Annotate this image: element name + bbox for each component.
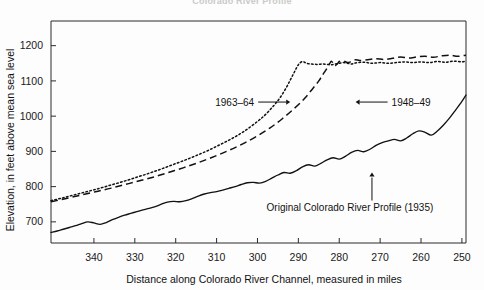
y-tick-label-1000: 1000: [20, 110, 44, 122]
figure-container: Colorado River Profile 70080090010001100…: [0, 0, 484, 290]
series-line-dotted: [51, 61, 466, 201]
y-tick-label-1200: 1200: [20, 39, 44, 51]
annotation-arrowhead: [369, 173, 374, 177]
x-tick-label-340: 340: [85, 251, 103, 263]
series-line-dashed: [51, 55, 466, 202]
x-tick-label-260: 260: [412, 251, 430, 263]
x-tick-label-280: 280: [330, 251, 348, 263]
ann-original-label: Original Colorado River Profile (1935): [267, 202, 434, 213]
y-axis-title: Elevation, in feet above mean sea level: [4, 49, 16, 232]
y-tick-label-1100: 1100: [20, 75, 43, 87]
x-axis-ticks: 340330320310300290280270260250: [85, 238, 471, 263]
annotation-arrowhead: [286, 99, 290, 104]
chart-canvas: 700800900100011001200 340330320310300290…: [0, 0, 484, 290]
y-tick-label-900: 900: [25, 145, 43, 157]
x-tick-label-300: 300: [249, 251, 267, 263]
y-tick-label-700: 700: [25, 215, 43, 227]
x-tick-label-270: 270: [371, 251, 389, 263]
ann-1963-label: 1963–64: [215, 97, 254, 108]
x-tick-label-250: 250: [453, 251, 471, 263]
x-tick-label-330: 330: [126, 251, 144, 263]
y-tick-label-800: 800: [25, 180, 43, 192]
annotation-arrowhead: [356, 99, 360, 104]
x-axis-title: Distance along Colorado River Channel, m…: [126, 273, 401, 285]
x-tick-label-310: 310: [208, 251, 226, 263]
x-tick-label-320: 320: [167, 251, 185, 263]
ann-1948-label: 1948–49: [392, 97, 431, 108]
annotation-layer: 1963–641948–49Original Colorado River Pr…: [215, 97, 433, 213]
x-tick-label-290: 290: [290, 251, 308, 263]
